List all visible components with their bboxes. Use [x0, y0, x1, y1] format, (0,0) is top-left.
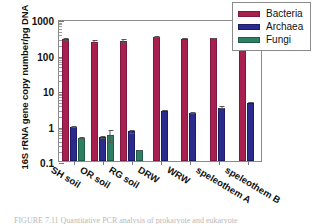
bar-archaea[interactable]: [161, 111, 168, 161]
error-bar: [94, 40, 95, 44]
figure-container: 16S rRNA gene copy number/pg DNA 1000100…: [0, 0, 334, 224]
bar-bacteria[interactable]: [210, 38, 217, 161]
bar-fungi[interactable]: [78, 138, 85, 161]
y-tick-label: 1: [48, 122, 59, 133]
bar-wrapper: [99, 137, 106, 161]
x-axis-labels: SH soilOR soilRG soilDRWWRWspeleothem As…: [58, 164, 262, 214]
bar-wrapper: [62, 39, 69, 161]
bar-group: [203, 21, 232, 161]
plot-inner: 10001001010.1: [59, 21, 261, 161]
error-bar: [65, 38, 66, 40]
error-bar: [164, 110, 165, 111]
bar-wrapper: [128, 131, 135, 161]
error-bar: [213, 38, 214, 39]
error-bar: [81, 137, 82, 139]
error-bar: [221, 106, 222, 108]
bar-archaea[interactable]: [247, 103, 254, 161]
bar-bacteria[interactable]: [153, 37, 160, 161]
y-axis-title: 16S rRNA gene copy number/pg DNA: [19, 10, 30, 170]
legend-label-bacteria: Bacteria: [266, 8, 303, 19]
error-bar: [184, 38, 185, 39]
y-tick-label: 1000: [32, 16, 59, 27]
bar-archaea[interactable]: [70, 127, 77, 161]
x-axis-label: RG soil: [107, 164, 141, 191]
y-tick-label: 100: [37, 51, 59, 62]
bar-wrapper: [70, 127, 77, 161]
figure-caption: FIGURE 7.11 Quantitative PCR analysis of…: [14, 216, 320, 224]
bar-wrapper: [78, 138, 85, 161]
bar-wrapper: [181, 39, 188, 161]
bar-wrapper: [120, 41, 127, 161]
y-tick-label: 10: [43, 87, 59, 98]
legend-item-fungi: Fungi: [238, 33, 303, 46]
legend: Bacteria Archaea Fungi: [232, 2, 311, 51]
bar-group: [88, 21, 117, 161]
legend-swatch-archaea: [238, 24, 260, 30]
bar-wrapper: [153, 37, 160, 161]
bar-bacteria[interactable]: [239, 32, 246, 161]
bar-wrapper: [91, 42, 98, 161]
bar-wrapper: [247, 103, 254, 161]
bar-groups: [59, 21, 261, 161]
bar-bacteria[interactable]: [181, 39, 188, 161]
bar-group: [174, 21, 203, 161]
x-axis-label: SH soil: [49, 164, 82, 190]
legend-swatch-bacteria: [238, 11, 260, 17]
bar-wrapper: [189, 113, 196, 161]
error-bar: [110, 130, 111, 142]
legend-label-fungi: Fungi: [266, 34, 291, 45]
error-bar: [123, 39, 124, 43]
bar-wrapper: [136, 150, 143, 161]
bar-wrapper: [218, 108, 225, 161]
bar-archaea[interactable]: [128, 131, 135, 161]
bar-fungi[interactable]: [136, 150, 143, 161]
bar-bacteria[interactable]: [120, 41, 127, 161]
error-bar: [250, 102, 251, 103]
bar-archaea[interactable]: [99, 137, 106, 161]
bar-group: [59, 21, 88, 161]
bar-group: [146, 21, 175, 161]
x-axis-label: WRW: [165, 164, 192, 186]
legend-item-archaea: Archaea: [238, 20, 303, 33]
error-bar: [102, 136, 103, 139]
error-bar: [131, 130, 132, 134]
bar-group: [117, 21, 146, 161]
error-bar: [139, 150, 140, 152]
bar-wrapper: [161, 111, 168, 161]
legend-item-bacteria: Bacteria: [238, 7, 303, 20]
bar-archaea[interactable]: [189, 113, 196, 161]
bar-bacteria[interactable]: [62, 39, 69, 161]
bar-wrapper: [239, 32, 246, 161]
bar-archaea[interactable]: [218, 108, 225, 161]
bar-bacteria[interactable]: [91, 42, 98, 161]
legend-label-archaea: Archaea: [266, 21, 303, 32]
error-bar: [192, 113, 193, 114]
legend-swatch-fungi: [238, 37, 260, 43]
bar-wrapper: [107, 135, 114, 161]
x-axis-label: OR soil: [78, 164, 112, 191]
error-bar: [156, 36, 157, 37]
error-bar: [73, 126, 74, 128]
bar-wrapper: [210, 38, 217, 161]
